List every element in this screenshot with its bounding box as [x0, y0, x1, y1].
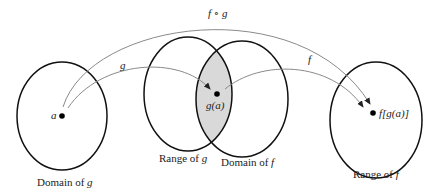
point-f-of-g-of-a [370, 110, 376, 116]
label-a: a [51, 109, 57, 121]
point-a [59, 113, 65, 119]
point-g-of-a [214, 91, 220, 97]
range-of-f-ellipse [330, 62, 422, 178]
label-range-of-f: Range of f [353, 168, 401, 180]
label-domain-of-g: Domain of g [37, 176, 93, 188]
label-arrow-composite: f ∘ g [208, 7, 228, 19]
label-range-of-g: Range of g [159, 152, 208, 164]
label-g-of-a: g(a) [206, 99, 225, 112]
f-arrow [225, 69, 363, 107]
label-domain-of-f: Domain of f [221, 156, 276, 168]
label-arrow-g: g [120, 59, 126, 71]
label-f-of-g-of-a: f[g(a)] [379, 107, 409, 120]
label-arrow-f: f [308, 53, 313, 65]
function-composition-diagram: a g(a) f[g(a)] g f f ∘ g Domain of g Ran… [0, 0, 433, 195]
